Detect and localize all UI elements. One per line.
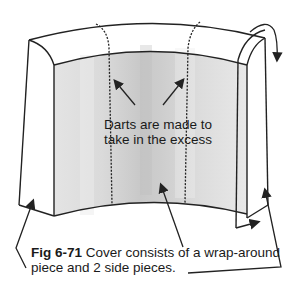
figure-caption: Fig 6-71 Cover consists of a wrap-around… [31,245,291,275]
caption-text-line2: piece and 2 side pieces. [31,260,291,275]
cover-diagram: Darts are made to take in the excess Fig… [0,0,298,297]
dart-annotation-line2: take in the excess [96,132,220,147]
dart-annotation: Darts are made to take in the excess [96,117,220,147]
caption-text-line1: Cover consists of a wrap-around [82,245,280,260]
figure-number: Fig 6-71 [31,245,82,260]
dart-annotation-line1: Darts are made to [96,117,220,132]
left-side-piece [19,40,54,216]
